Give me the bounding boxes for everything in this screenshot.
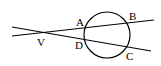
label-a: A (76, 16, 84, 28)
secant-diagram: V A B D C (0, 0, 161, 66)
circle (84, 12, 130, 58)
label-b: B (129, 10, 136, 22)
label-v: V (37, 36, 45, 48)
label-c: C (126, 50, 133, 62)
label-d: D (75, 39, 83, 51)
